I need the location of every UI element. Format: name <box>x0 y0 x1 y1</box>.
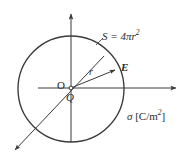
charge-label: Q <box>66 92 74 103</box>
origin-point-marker <box>69 86 73 90</box>
surface-charge-density-label: σ [C/m2] <box>127 111 165 122</box>
sigma-units-close: ] <box>162 110 166 122</box>
sigma-units-open: [C/m <box>132 110 157 122</box>
figure-canvas <box>0 0 192 165</box>
radius-field-vector <box>72 70 115 88</box>
surface-area-label: S = 4πr2 <box>102 31 139 42</box>
physics-figure-gaussian-sphere: S = 4πr2 E r O Q σ [C/m2] <box>0 0 192 165</box>
radius-label: r <box>89 67 93 77</box>
surface-area-text: S = 4πr <box>102 30 136 42</box>
origin-label: O <box>57 80 65 91</box>
electric-field-label: E <box>121 62 128 73</box>
surface-area-exponent: 2 <box>136 28 140 37</box>
